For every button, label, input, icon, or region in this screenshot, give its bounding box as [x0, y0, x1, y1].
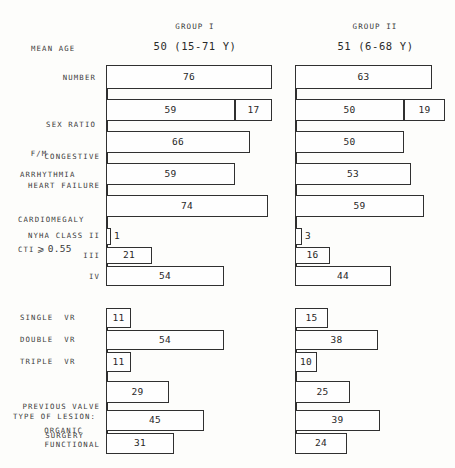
- bar-value-group1-row1: 76: [106, 71, 272, 82]
- bar-value-group2-row7: 16: [295, 249, 330, 260]
- row-label-type-of-lesion: TYPE OF LESION:: [13, 412, 96, 422]
- bar-value-group2-row4: 53: [295, 168, 411, 179]
- bar-value-group1-row11: 11: [106, 356, 131, 367]
- row-label-nyha-class-iii: III: [0, 251, 100, 261]
- bar-value-group1-row12: 29: [106, 386, 169, 397]
- row-label-chf-line2: HEART FAILURE: [0, 181, 100, 191]
- bar-value-group2-row6: 3: [305, 230, 311, 241]
- bar-value-group2-row1: 63: [295, 71, 432, 82]
- row-label-chf-line1: CONGESTIVE: [0, 152, 100, 162]
- bar-value-group2-row12: 25: [295, 386, 350, 397]
- bar-value-group2-row3: 50: [295, 136, 404, 147]
- bar-value-group1-row9: 11: [106, 312, 131, 323]
- bar-value-group1-row10: 54: [106, 334, 224, 345]
- row-label-arrhythmia: ARRHYTHMIA: [20, 170, 75, 180]
- row-label-nyha-class-ii: NYHA CLASS II: [0, 231, 100, 241]
- bar-value-group2-row9: 15: [295, 312, 328, 323]
- clinical-comparison-bar-chart: GROUP I GROUP II MEAN AGE 50 (15-71 Y) 5…: [0, 0, 455, 468]
- group2-header: GROUP II: [320, 22, 430, 31]
- bar-group2-row6: [295, 228, 302, 245]
- row-label-single-vr: SINGLE VR: [20, 313, 75, 323]
- bar-value-group1-row8: 54: [106, 270, 224, 281]
- group2-mean-age-value: 51 (6-68 Y): [318, 40, 433, 52]
- bar-value-group2-row5: 59: [295, 200, 424, 211]
- bar-value-group1-row4: 59: [106, 168, 235, 179]
- row-label-lesion-organic: ORGANIC: [0, 426, 83, 436]
- bar-value-group2-row14: 24: [295, 437, 347, 448]
- bar-value-group2-row2-seg2: 19: [404, 104, 445, 115]
- bar-value-group2-row2: 50: [295, 104, 404, 115]
- bar-value-group1-row2-seg2: 17: [235, 104, 272, 115]
- bar-value-group1-row5: 74: [106, 200, 268, 211]
- bar-value-group2-row13: 39: [295, 414, 380, 425]
- bar-value-group1-row6: 1: [114, 230, 120, 241]
- bar-value-group1-row7: 21: [106, 249, 152, 260]
- bar-value-group1-row2: 59: [106, 104, 235, 115]
- bar-group1-row6: [106, 228, 111, 245]
- row-label-prev-valve-line1: PREVIOUS VALVE: [0, 402, 100, 412]
- row-label-nyha-class-iv: IV: [0, 272, 100, 282]
- row-label-number: NUMBER: [0, 73, 96, 83]
- row-label-triple-vr: TRIPLE VR: [20, 357, 75, 367]
- row-label-double-vr: DOUBLE VR: [20, 335, 75, 345]
- bar-value-group1-row13: 45: [106, 414, 204, 425]
- bar-value-group2-row8: 44: [295, 270, 391, 281]
- mean-age-label: MEAN AGE: [31, 44, 75, 54]
- group1-header: GROUP I: [145, 22, 245, 31]
- bar-value-group1-row3: 66: [106, 136, 250, 147]
- bar-value-group2-row10: 38: [295, 334, 378, 345]
- row-label-sex-ratio-line1: SEX RATIO: [0, 120, 96, 130]
- row-label-cardiomegaly-line1: CARDIOMEGALY: [18, 215, 85, 225]
- bar-value-group2-row11: 10: [295, 356, 317, 367]
- bar-value-group1-row14: 31: [106, 437, 174, 448]
- group1-mean-age-value: 50 (15-71 Y): [140, 40, 250, 52]
- row-label-lesion-functional: FUNCTIONAL: [0, 440, 100, 450]
